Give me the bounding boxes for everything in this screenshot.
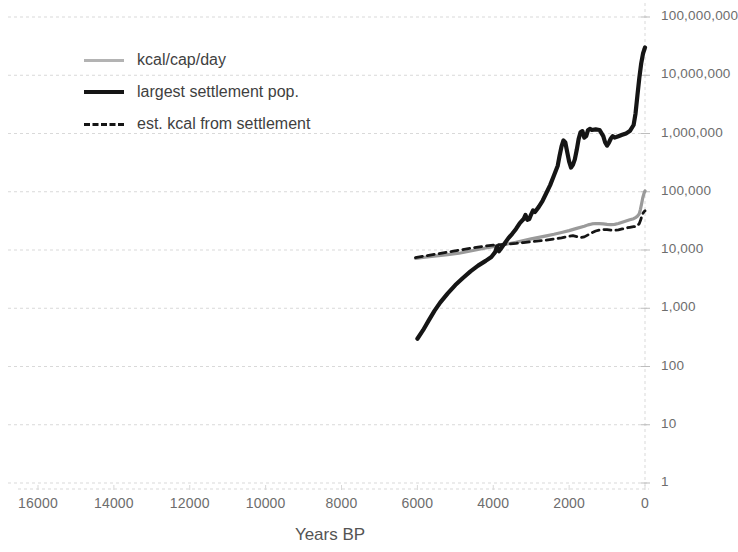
x-axis-tick-label: 6000	[377, 495, 457, 511]
legend-item-est-kcal-from-settlement: est. kcal from settlement	[84, 108, 384, 140]
x-axis-tick-label: 16000	[0, 495, 78, 511]
y-axis-tick-label: 10,000	[661, 241, 704, 256]
series-line-largest-settlement-pop	[417, 47, 645, 338]
legend-label: kcal/cap/day	[137, 51, 226, 69]
y-axis-tick-label: 100,000	[661, 183, 711, 198]
x-axis-title: Years BP	[0, 525, 660, 545]
legend-item-largest-settlement-pop: largest settlement pop.	[84, 76, 384, 108]
series-line-kcal-cap-day	[415, 191, 645, 258]
y-axis-tick-label: 1	[661, 474, 669, 489]
legend-swatch-black-solid-line-icon	[84, 86, 124, 98]
y-axis-tick-label: 1,000	[661, 299, 696, 314]
x-axis-tick-label: 0	[605, 495, 685, 511]
x-axis-tick-label: 14000	[74, 495, 154, 511]
x-axis-tick-label: 4000	[453, 495, 533, 511]
x-axis-tick-label: 8000	[302, 495, 382, 511]
legend-swatch-gray-solid-line-icon	[84, 54, 124, 66]
y-axis-tick-label: 1,000,000	[661, 125, 723, 140]
legend-item-kcal-cap-day: kcal/cap/day	[84, 44, 384, 76]
x-axis-tick-label: 2000	[529, 495, 609, 511]
x-axis-tick-label: 12000	[150, 495, 230, 511]
y-axis-tick-label: 100	[661, 358, 684, 373]
legend-swatch-black-dashed-line-icon	[84, 118, 124, 130]
y-axis-tick-label: 100,000,000	[661, 8, 738, 23]
legend-label: largest settlement pop.	[137, 83, 299, 101]
y-axis-tick-label: 10,000,000	[661, 66, 731, 81]
x-axis-tick-label: 10000	[226, 495, 306, 511]
chart-legend: kcal/cap/day largest settlement pop. est…	[84, 44, 384, 140]
chart-figure: 100,000,00010,000,0001,000,000100,00010,…	[0, 0, 738, 552]
y-axis-tick-label: 10	[661, 416, 676, 431]
legend-label: est. kcal from settlement	[137, 115, 310, 133]
